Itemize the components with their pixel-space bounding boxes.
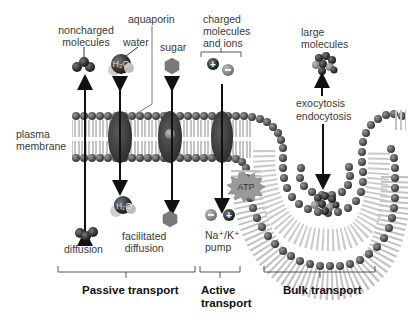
svg-text:+: + bbox=[210, 59, 216, 70]
large-molecules-label: largemolecules bbox=[301, 26, 348, 50]
exocytosis-label: exocytosis bbox=[296, 97, 345, 109]
h2o-bottom-label: H₂O bbox=[116, 201, 132, 211]
charged-molecules-label: chargedmoleculesand ions bbox=[203, 13, 250, 49]
noncharged-molecules-label: nonchargedmolecules bbox=[56, 24, 116, 48]
passive-bracket bbox=[58, 266, 195, 278]
passive-transport-label: Passive transport bbox=[82, 284, 179, 297]
atp-label: ATP bbox=[238, 182, 255, 192]
h2o-top-label: H₂O bbox=[113, 59, 130, 69]
aquaporin-label: aquaporin bbox=[128, 13, 175, 25]
sugar-in-carrier-icon bbox=[165, 129, 175, 139]
water-label: water bbox=[123, 36, 149, 48]
endocytosis-label: endocytosis bbox=[296, 110, 351, 122]
sugar-bottom-icon bbox=[163, 211, 177, 227]
charged-bracket bbox=[201, 48, 241, 57]
large-molecule-top-icon bbox=[312, 52, 338, 75]
na-k-pump-label: Na⁺/K⁺pump bbox=[205, 229, 239, 253]
sugar-top-icon bbox=[165, 58, 179, 74]
plasma-membrane-label: plasmamembrane bbox=[16, 128, 66, 152]
active-transport-label: Activetransport bbox=[201, 284, 251, 310]
bulk-transport-label: Bulk transport bbox=[283, 284, 362, 297]
facilitated-diffusion-label: facilitateddiffusion bbox=[122, 230, 166, 254]
sugar-label: sugar bbox=[160, 41, 186, 53]
noncharged-molecule-top-icon bbox=[72, 57, 95, 72]
svg-text:+: + bbox=[226, 210, 232, 221]
noncharged-molecule-bottom-icon bbox=[75, 227, 98, 241]
diffusion-label: diffusion bbox=[64, 243, 103, 255]
active-bracket bbox=[200, 266, 240, 278]
